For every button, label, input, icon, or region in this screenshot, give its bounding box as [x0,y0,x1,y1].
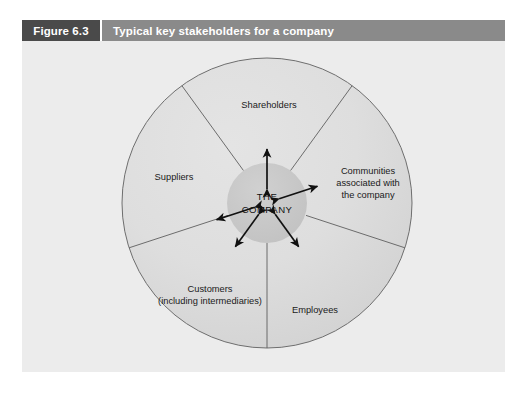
figure-header: Figure 6.3 Typical key stakeholders for … [22,20,505,41]
communities-line-3: the company [341,190,395,200]
customers-line-2: (including intermediaries) [158,296,262,306]
center-label-line2: COMPANY [242,204,293,215]
figure-title: Typical key stakeholders for a company [100,20,505,41]
stakeholder-diagram: THE COMPANY Shareholders Suppliers Commu… [22,41,505,372]
communities-line-1: Communities [341,166,396,176]
segment-label-shareholders: Shareholders [241,100,297,110]
figure-body: THE COMPANY Shareholders Suppliers Commu… [22,41,505,372]
segment-label-employees: Employees [292,305,338,315]
segment-label-communities: Communities associated with the company [336,166,400,200]
communities-line-2: associated with [336,178,400,188]
center-label-line1: THE [257,191,277,202]
figure-number-badge: Figure 6.3 [22,20,100,41]
figure-panel: Figure 6.3 Typical key stakeholders for … [22,20,505,372]
segment-label-suppliers: Suppliers [155,172,194,182]
customers-line-1: Customers [188,284,233,294]
